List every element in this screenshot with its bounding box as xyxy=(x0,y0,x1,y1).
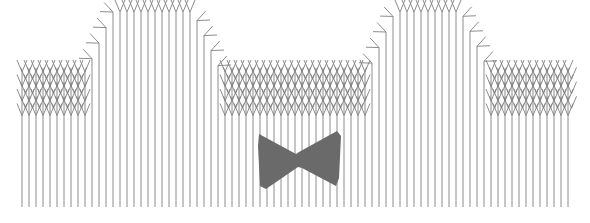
arrow-stroke-left xyxy=(477,46,490,47)
arrow-stroke-left xyxy=(204,35,217,36)
hatched-region-diagram xyxy=(0,0,590,223)
arrow-stroke-left xyxy=(463,16,476,17)
diagram-canvas xyxy=(0,0,590,223)
arrow-stroke-left xyxy=(470,31,483,32)
arrow-stroke-left xyxy=(197,20,210,21)
arrow-stroke-left xyxy=(211,50,224,51)
